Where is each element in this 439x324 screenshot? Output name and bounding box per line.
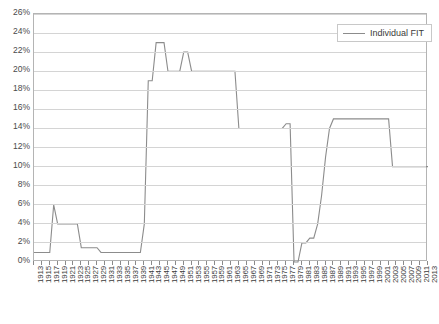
x-tick [120, 261, 121, 265]
x-tick [167, 261, 168, 265]
x-tick [80, 261, 81, 265]
gridline-y [34, 90, 426, 91]
x-tick [309, 261, 310, 265]
gridline-y [34, 242, 426, 243]
x-tick [175, 261, 176, 265]
y-tick-label: 22% [13, 45, 30, 55]
x-tick [340, 261, 341, 265]
x-axis: 1913191519171919192119231925192719291931… [33, 261, 427, 324]
x-tick [317, 261, 318, 265]
x-tick [143, 261, 144, 265]
plot-area [33, 13, 427, 261]
x-tick [388, 261, 389, 265]
x-tick [293, 261, 294, 265]
x-tick [72, 261, 73, 265]
x-tick [325, 261, 326, 265]
x-tick [112, 261, 113, 265]
x-tick [411, 261, 412, 265]
x-tick [57, 261, 58, 265]
x-tick [49, 261, 50, 265]
x-tick [277, 261, 278, 265]
gridline-y [34, 166, 426, 167]
y-tick-label: 26% [13, 7, 30, 17]
gridline-y [34, 71, 426, 72]
y-tick-label: 16% [13, 102, 30, 112]
x-tick [65, 261, 66, 265]
gridline-y [34, 204, 426, 205]
x-tick [191, 261, 192, 265]
x-tick [151, 261, 152, 265]
x-tick [372, 261, 373, 265]
x-tick [262, 261, 263, 265]
gridline-y [34, 109, 426, 110]
gridline-y [34, 52, 426, 53]
series-line-individual-fit [34, 43, 428, 262]
x-tick [356, 261, 357, 265]
gridline-y [34, 14, 426, 15]
x-tick [301, 261, 302, 265]
y-tick-label: 18% [13, 83, 30, 93]
y-tick-label: 10% [13, 160, 30, 170]
gridline-y [34, 223, 426, 224]
y-axis: 0%2%4%6%8%10%12%14%16%18%20%22%24%26% [0, 13, 30, 261]
x-tick [332, 261, 333, 265]
x-tick [380, 261, 381, 265]
y-tick-label: 20% [13, 64, 30, 74]
x-tick [183, 261, 184, 265]
y-tick-label: 14% [13, 121, 30, 131]
x-tick [41, 261, 42, 265]
y-tick-label: 2% [18, 236, 30, 246]
x-tick [214, 261, 215, 265]
x-tick [364, 261, 365, 265]
x-tick [222, 261, 223, 265]
x-tick [238, 261, 239, 265]
gridline-y [34, 147, 426, 148]
x-tick [403, 261, 404, 265]
gridline-y [34, 128, 426, 129]
x-tick [419, 261, 420, 265]
x-tick [254, 261, 255, 265]
x-tick [128, 261, 129, 265]
x-tick-label: 2013 [430, 266, 439, 283]
y-tick-label: 6% [18, 198, 30, 208]
y-tick-label: 12% [13, 141, 30, 151]
x-tick [395, 261, 396, 265]
y-tick-label: 4% [18, 217, 30, 227]
x-tick [427, 261, 428, 265]
y-tick-label: 8% [18, 179, 30, 189]
x-tick [348, 261, 349, 265]
legend-swatch-individual-fit [343, 33, 365, 34]
x-tick [159, 261, 160, 265]
x-tick [96, 261, 97, 265]
y-tick-label: 0% [18, 255, 30, 265]
x-tick [285, 261, 286, 265]
x-tick [33, 261, 34, 265]
x-tick [246, 261, 247, 265]
x-tick [88, 261, 89, 265]
x-tick [104, 261, 105, 265]
y-tick-label: 24% [13, 26, 30, 36]
legend-label-individual-fit: Individual FIT [370, 28, 424, 38]
gridline-y [34, 185, 426, 186]
legend: Individual FIT [337, 24, 432, 42]
x-tick [230, 261, 231, 265]
x-tick [269, 261, 270, 265]
x-tick [198, 261, 199, 265]
x-tick [206, 261, 207, 265]
x-tick [135, 261, 136, 265]
